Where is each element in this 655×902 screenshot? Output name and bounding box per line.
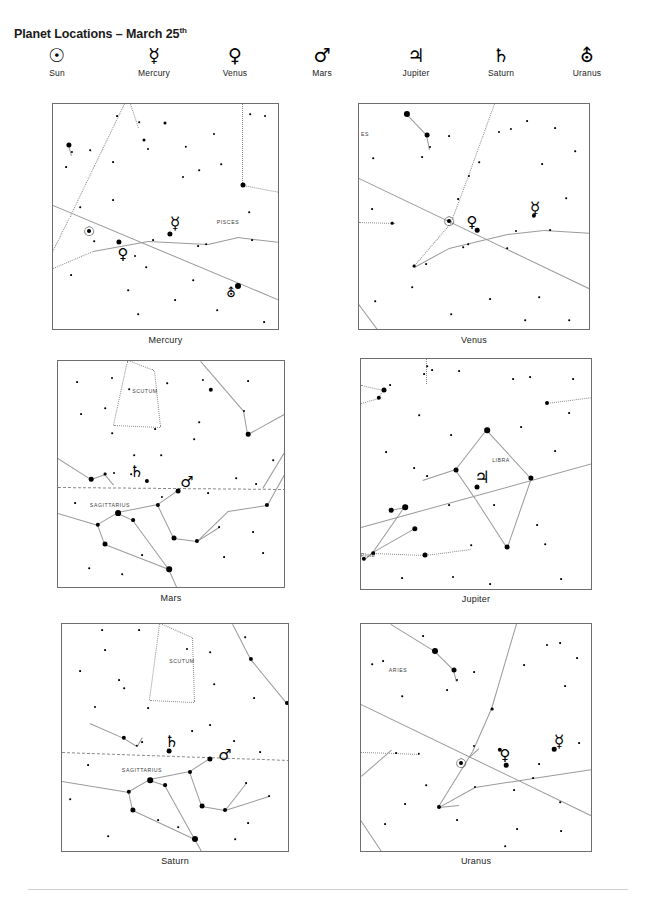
star: [559, 801, 561, 803]
star: [576, 657, 578, 659]
star: [520, 426, 522, 428]
sky-view-saturn[interactable]: SCUTUMSAGITTARIUS♄♂: [61, 623, 289, 852]
star: [454, 468, 459, 473]
venus-symbol-icon[interactable]: ♀: [500, 748, 511, 763]
page-title-text: Planet Locations – March 25: [14, 28, 179, 42]
star: [564, 685, 566, 687]
sky-view-venus[interactable]: ES☉♀☿: [358, 103, 590, 330]
mercury-symbol-icon[interactable]: ☿: [554, 733, 564, 750]
sun-symbol-icon[interactable]: ☉: [455, 757, 467, 770]
constellation-line: [189, 772, 202, 806]
panel-caption-mars: Mars: [57, 593, 285, 603]
constellation-line: [62, 781, 129, 793]
constellation-line: [359, 222, 395, 224]
constellation-label-aries: ARIES: [389, 667, 407, 673]
mercury-symbol-icon[interactable]: ☿: [530, 200, 540, 217]
star: [474, 786, 476, 788]
star: [448, 504, 450, 506]
constellation-label-pisces: PISCES: [217, 219, 239, 225]
star: [456, 819, 458, 821]
star: [568, 319, 570, 321]
star: [413, 467, 415, 469]
constellation-line: [475, 499, 507, 548]
star: [377, 396, 381, 400]
sky-view-jupiter[interactable]: LIBRAPluto♃: [360, 358, 592, 590]
star: [448, 135, 450, 137]
constellation-line: [425, 549, 471, 556]
legend-label-jupiter: Jupiter: [381, 68, 451, 78]
mars-symbol-icon: ♂: [287, 44, 357, 66]
star: [116, 115, 118, 117]
star: [578, 742, 580, 744]
legend-item-uranus: ⛢Uranus: [552, 44, 622, 78]
star: [523, 664, 525, 666]
constellation-line: [243, 185, 279, 193]
page-title-ordinal-suffix: th: [179, 26, 186, 35]
constellation-line: [228, 505, 267, 512]
star: [384, 823, 386, 825]
sun-symbol-icon[interactable]: ☉: [443, 215, 455, 228]
star: [79, 670, 81, 672]
constellation-line: [128, 360, 154, 371]
legend-label-saturn: Saturn: [466, 68, 536, 78]
star: [213, 133, 215, 135]
star: [411, 286, 413, 288]
star: [141, 554, 143, 556]
star: [69, 798, 71, 800]
star: [177, 826, 179, 828]
star: [223, 556, 225, 558]
star: [111, 377, 113, 379]
star: [389, 508, 394, 513]
star: [138, 121, 140, 123]
venus-symbol-icon[interactable]: ♀: [118, 247, 129, 262]
star: [246, 432, 251, 437]
star: [154, 428, 156, 430]
uranus-symbol-icon[interactable]: ⛢: [226, 286, 236, 299]
star: [549, 229, 551, 231]
constellation-line: [202, 806, 225, 811]
constellation-line: [243, 411, 248, 434]
mars-symbol-icon[interactable]: ♂: [180, 475, 193, 490]
star: [526, 120, 528, 122]
star: [559, 642, 561, 644]
constellation-line: [507, 478, 532, 547]
star: [103, 542, 108, 547]
constellation-line: [372, 506, 405, 553]
venus-symbol-icon[interactable]: ♀: [467, 215, 478, 230]
jupiter-symbol-icon[interactable]: ♃: [474, 469, 489, 486]
sun-symbol-icon[interactable]: ☉: [83, 225, 95, 238]
legend-item-sun: ☉Sun: [22, 44, 92, 78]
star: [213, 683, 215, 685]
star: [93, 240, 95, 242]
star: [431, 369, 433, 371]
star: [249, 113, 251, 115]
star: [127, 790, 131, 794]
star: [371, 663, 373, 665]
sky-view-mercury[interactable]: PISCES☉♀☿⛢: [52, 103, 279, 330]
sky-view-uranus[interactable]: ARIES☉♀☿: [360, 623, 592, 852]
star: [272, 459, 274, 461]
star: [198, 421, 200, 423]
star: [262, 552, 264, 554]
mars-symbol-icon[interactable]: ♂: [218, 748, 231, 763]
star: [510, 128, 512, 130]
star: [565, 197, 567, 199]
star: [123, 687, 125, 689]
star-chart-panel-jupiter: LIBRAPluto♃Jupiter: [360, 358, 592, 614]
mercury-symbol-icon[interactable]: ☿: [170, 215, 180, 232]
saturn-symbol-icon[interactable]: ♄: [130, 464, 144, 480]
star: [457, 198, 459, 200]
star: [79, 206, 81, 208]
star: [423, 373, 425, 375]
star: [191, 730, 193, 732]
legend-item-mercury: ☿Mercury: [119, 44, 189, 78]
star: [560, 578, 562, 580]
star: [131, 518, 135, 522]
star: [185, 146, 187, 148]
star: [76, 381, 78, 383]
saturn-symbol-icon[interactable]: ♄: [165, 734, 179, 750]
constellation-line: [486, 430, 531, 479]
star: [133, 454, 135, 456]
sky-view-mars[interactable]: SCUTUMSAGITTARIUS♄♂: [57, 360, 285, 588]
star: [244, 636, 246, 638]
